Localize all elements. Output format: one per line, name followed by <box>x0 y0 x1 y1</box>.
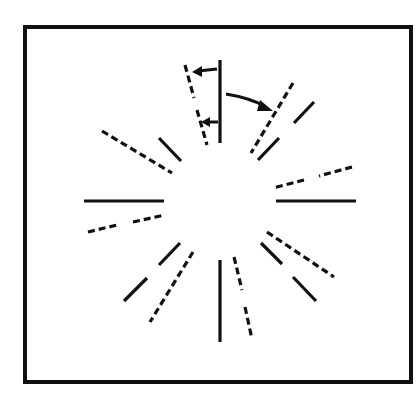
solid-line-upper-right-inner <box>258 138 279 160</box>
dashed-line-upper-right <box>251 83 293 153</box>
arrowhead-icon <box>192 66 202 77</box>
top-lower-arrow-icon <box>201 117 218 127</box>
dashed-line-lower-right <box>267 232 334 277</box>
rotation-arrows <box>192 66 273 127</box>
top-upper-arrow-icon <box>192 66 217 77</box>
solid-line-lower-right-inner <box>261 243 282 264</box>
curved-arrow-icon <box>226 94 273 111</box>
dashed-line-left-inner <box>133 215 165 222</box>
solid-line-lower-left-inner <box>159 243 180 265</box>
dashed-line-bottom-inner <box>245 307 252 339</box>
figure-frame <box>25 27 411 382</box>
dashed-line-left-outer <box>88 225 117 232</box>
solid-line-upper-right-outer <box>294 102 314 123</box>
figure-description: Radial tilt illusion diagram: pairs of s… <box>0 0 1 1</box>
dashed-line-top-inner <box>197 110 207 145</box>
dashed-line-bottom-outer <box>234 257 242 290</box>
solid-line-lower-right-outer <box>293 277 316 301</box>
arrowhead-icon <box>257 100 273 111</box>
dashed-line-upper-left <box>102 131 172 173</box>
tilt-illusion-diagram <box>0 0 419 406</box>
dashed-line-right-inner <box>273 180 304 188</box>
dashed-line-top-outer <box>185 65 194 98</box>
solid-line-upper-left <box>159 138 181 161</box>
dashed-line-lower-left <box>150 252 193 322</box>
dashed-line-right-outer <box>319 167 352 176</box>
solid-line-lower-left-outer <box>124 278 147 301</box>
solid-reference-lines <box>84 60 356 342</box>
